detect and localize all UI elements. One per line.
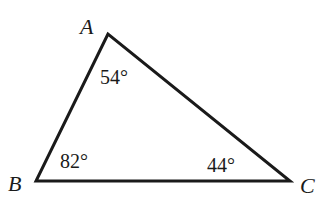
angle-label-b: 82° [60, 150, 88, 172]
vertex-label-a: A [78, 14, 94, 39]
vertex-label-b: B [8, 171, 21, 196]
angle-label-a: 54° [100, 66, 128, 88]
angle-label-c: 44° [207, 154, 235, 176]
triangle-diagram: A B C 54° 82° 44° [0, 0, 322, 198]
vertex-label-c: C [300, 173, 315, 198]
